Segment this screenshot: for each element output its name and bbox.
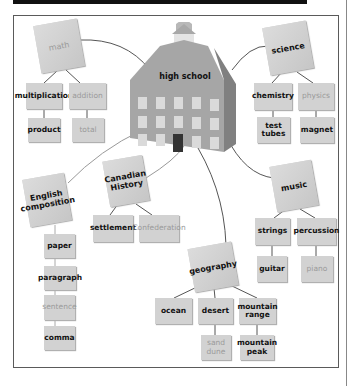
concept-magnet: magnet [300, 117, 334, 143]
concept-comma: comma [44, 326, 75, 350]
concept-physics: physics [298, 83, 334, 110]
concept-multiplication: multiplication [26, 83, 62, 109]
concept-paper: paper [44, 234, 75, 258]
concept-piano: piano [301, 256, 333, 282]
concept-ocean: ocean [155, 298, 192, 324]
subject-card-music: music [269, 160, 318, 213]
school-building-icon [124, 22, 240, 152]
concept-paragraph: paragraph [44, 266, 76, 290]
concept-chemistry: chemistry [254, 83, 292, 110]
concept-desert: desert [198, 298, 233, 324]
subject-card-math: math [33, 19, 85, 74]
concept-sand-dune: sand dune [201, 335, 231, 360]
concept-total: total [72, 118, 104, 142]
concept-test-tubes: test tubes [257, 117, 290, 143]
concept-sentence: sentence [44, 295, 75, 320]
center-node-label: high school [155, 72, 215, 81]
subject-card-geography: geography [188, 242, 239, 293]
subject-card-canadian-history: Canadian History [102, 155, 149, 207]
subject-card-science: science [262, 21, 314, 76]
concept-guitar: guitar [257, 256, 287, 282]
concept-mountain-peak: mountain peak [240, 335, 274, 360]
concept-mountain-range: mountain range [239, 298, 276, 324]
concept-strings: strings [255, 218, 290, 245]
concept-product: product [28, 118, 60, 142]
concept-addition: addition [69, 83, 106, 109]
subject-card-english-composition: English composition [22, 173, 72, 228]
concept-settlement: settlement [93, 215, 133, 242]
concept-confederation: Confederation [139, 215, 179, 242]
concept-percussion: percussion [297, 218, 336, 245]
